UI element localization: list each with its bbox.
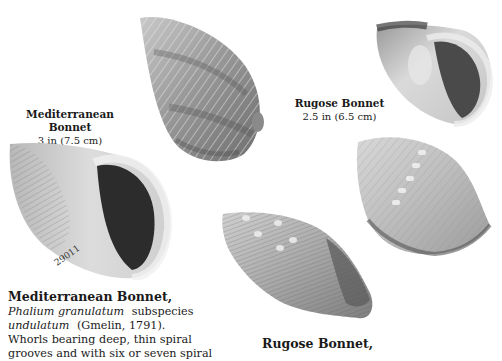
- caption-name: Mediterranean Bonnet: [5, 108, 135, 134]
- mediterranean-bonnet-entry: Mediterranean Bonnet, Phalium granulatum…: [8, 289, 248, 361]
- authority: (Gmelin, 1791).: [77, 319, 165, 332]
- rugose-bonnet-entry-title: Rugose Bonnet,: [262, 336, 373, 351]
- entry-taxonomy-line2: undulatum (Gmelin, 1791).: [8, 319, 248, 333]
- entry-title: Mediterranean Bonnet,: [8, 289, 248, 305]
- subspecies-name: undulatum: [8, 319, 69, 332]
- entry-taxonomy-line1: Phalium granulatum subspecies: [8, 305, 248, 319]
- entry-description-line1: Whorls bearing deep, thin spiral: [8, 333, 248, 347]
- rugose-bonnet-caption: Rugose Bonnet 2.5 in (6.5 cm): [282, 97, 397, 123]
- caption-size: 2.5 in (6.5 cm): [282, 110, 397, 123]
- subspecies-word: subspecies: [132, 305, 194, 318]
- entry-description-line2: grooves and with six or seven spiral: [8, 347, 248, 361]
- mediterranean-bonnet-aperture-image: 29011: [2, 138, 177, 280]
- caption-name: Rugose Bonnet: [282, 97, 397, 110]
- species-name: Phalium granulatum: [8, 305, 124, 318]
